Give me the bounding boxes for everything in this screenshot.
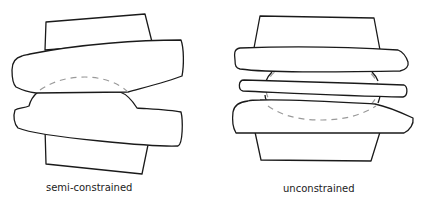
lower-block (255, 132, 380, 161)
unconstrained-figure (233, 16, 414, 161)
middle-insert (239, 80, 407, 97)
upper-plate (12, 40, 183, 93)
unconstrained-label: unconstrained (283, 183, 355, 194)
semi-constrained-figure (12, 14, 183, 174)
upper-plate (235, 47, 409, 72)
lower-plate (233, 100, 414, 133)
semi-constrained-label: semi-constrained (46, 182, 132, 193)
diagram-canvas (0, 0, 424, 206)
upper-block (254, 16, 380, 50)
lower-plate (14, 91, 182, 147)
